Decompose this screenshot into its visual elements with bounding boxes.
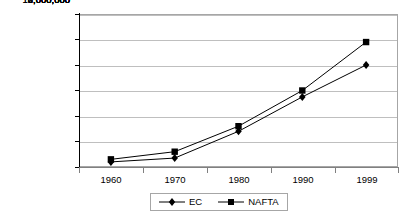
x-axis: 1960 1970 1980 1990 1999 <box>0 0 415 216</box>
legend-label: EC <box>189 197 202 207</box>
x-axis-tick-label: 1999 <box>356 174 377 185</box>
line-chart: 12,000,000 10,000,000 8,000,000 6,000,00… <box>0 0 415 216</box>
diamond-marker-icon <box>159 197 185 207</box>
x-axis-tick <box>271 168 272 173</box>
legend-entry-ec: EC <box>159 197 202 207</box>
x-axis-tick-label: 1970 <box>164 174 185 185</box>
x-axis-tick <box>79 168 80 173</box>
x-axis-tick-label: 1960 <box>100 174 121 185</box>
x-axis-tick <box>143 168 144 173</box>
square-marker-icon <box>218 197 244 207</box>
x-axis-tick-label: 1990 <box>292 174 313 185</box>
x-axis-tick-label: 1980 <box>228 174 249 185</box>
legend-label: NAFTA <box>248 197 278 207</box>
x-axis-tick <box>335 168 336 173</box>
x-axis-tick <box>207 168 208 173</box>
legend-entry-nafta: NAFTA <box>218 197 278 207</box>
x-axis-tick <box>398 168 399 173</box>
chart-legend: EC NAFTA <box>150 193 288 211</box>
